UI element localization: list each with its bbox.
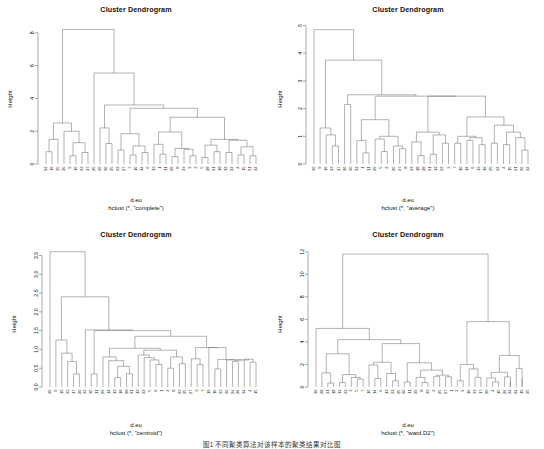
svg-text:29: 29	[169, 166, 174, 171]
x-caption-line2-centroid: hclust (*, "centroid")	[0, 429, 272, 437]
svg-text:3.5: 3.5	[33, 252, 39, 259]
svg-text:24: 24	[513, 389, 518, 394]
svg-text:21: 21	[513, 166, 518, 171]
svg-text:7: 7	[127, 166, 132, 169]
panel-average: Cluster Dendrogram Height 01234536916331…	[272, 0, 544, 225]
svg-text:4: 4	[247, 389, 252, 392]
svg-text:2: 2	[29, 130, 35, 133]
svg-text:35: 35	[488, 166, 493, 171]
panel-ward: Cluster Dendrogram Height 02468101236283…	[272, 225, 544, 449]
x-caption-line1-complete: d.eu	[0, 196, 272, 204]
svg-text:15: 15	[496, 389, 501, 394]
svg-text:2.0: 2.0	[33, 308, 39, 315]
svg-text:28: 28	[319, 389, 324, 394]
svg-text:27: 27	[397, 166, 402, 171]
svg-text:7: 7	[200, 389, 205, 392]
svg-text:34: 34	[253, 166, 258, 171]
svg-text:32: 32	[354, 166, 359, 171]
x-caption-line2-complete: hclust (*, "complete")	[0, 204, 272, 212]
svg-text:22: 22	[141, 389, 146, 394]
svg-text:2.5: 2.5	[33, 289, 39, 296]
svg-text:2: 2	[165, 389, 170, 392]
svg-text:5: 5	[354, 389, 359, 392]
svg-text:32: 32	[390, 389, 395, 394]
svg-text:26: 26	[502, 389, 507, 394]
svg-text:35: 35	[55, 166, 60, 171]
svg-text:28: 28	[421, 166, 426, 171]
svg-text:30: 30	[88, 389, 93, 394]
svg-text:14: 14	[372, 389, 377, 394]
svg-text:36: 36	[313, 389, 318, 394]
svg-text:0: 0	[299, 385, 305, 388]
svg-text:24: 24	[43, 166, 48, 171]
svg-text:8: 8	[171, 389, 176, 392]
x-caption-line1-centroid: d.eu	[0, 421, 272, 429]
svg-text:4: 4	[235, 166, 240, 169]
svg-text:6: 6	[153, 389, 158, 392]
svg-text:15: 15	[507, 166, 512, 171]
svg-text:27: 27	[121, 166, 126, 171]
svg-text:22: 22	[343, 389, 348, 394]
svg-text:36: 36	[311, 166, 316, 171]
svg-text:22: 22	[229, 166, 234, 171]
svg-text:10: 10	[299, 271, 305, 277]
panel-complete: Cluster Dendrogram Height 02468241935309…	[0, 0, 272, 225]
svg-text:2: 2	[187, 166, 192, 169]
svg-text:11: 11	[407, 389, 412, 394]
svg-text:19: 19	[482, 166, 487, 171]
svg-text:34: 34	[507, 389, 512, 394]
svg-text:4: 4	[29, 97, 35, 100]
dendrogram-plot-ward: 0246810123628311812223571014613322530112…	[272, 225, 544, 421]
svg-text:4: 4	[297, 52, 303, 55]
dendrogram-plot-complete: 0246824193530916331720263625322771014613…	[0, 0, 272, 196]
svg-text:34: 34	[241, 389, 246, 394]
svg-text:16: 16	[466, 389, 471, 394]
svg-text:2: 2	[384, 166, 389, 169]
x-caption-line1-average: d.eu	[272, 196, 544, 204]
svg-text:12: 12	[433, 166, 438, 171]
svg-text:20: 20	[342, 166, 347, 171]
x-caption-ward: d.eu hclust (*, "ward.D2")	[272, 421, 544, 437]
svg-text:4: 4	[299, 340, 305, 343]
svg-text:14: 14	[106, 389, 111, 394]
svg-text:29: 29	[372, 166, 377, 171]
svg-text:19: 19	[49, 166, 54, 171]
svg-text:0: 0	[29, 162, 35, 165]
svg-text:16: 16	[323, 166, 328, 171]
figure-caption: 图1 不同聚类算法对该样本的聚类结果对比图	[0, 439, 544, 449]
svg-text:20: 20	[484, 389, 489, 394]
svg-text:0.5: 0.5	[33, 364, 39, 371]
svg-text:2: 2	[297, 107, 303, 110]
svg-text:11: 11	[163, 166, 168, 171]
svg-text:20: 20	[77, 389, 82, 394]
svg-text:8: 8	[175, 166, 180, 169]
svg-text:29: 29	[100, 389, 105, 394]
svg-text:27: 27	[443, 389, 448, 394]
svg-text:3.0: 3.0	[33, 271, 39, 278]
svg-text:2: 2	[431, 389, 436, 392]
svg-text:13: 13	[112, 389, 117, 394]
svg-text:35: 35	[525, 389, 530, 394]
svg-text:1: 1	[360, 166, 365, 169]
svg-text:10: 10	[366, 389, 371, 394]
dendrogram-plot-centroid: 0.00.51.01.52.02.53.03.53691633172032301…	[0, 225, 272, 421]
x-caption-line2-ward: hclust (*, "ward.D2")	[272, 429, 544, 437]
svg-text:12: 12	[223, 166, 228, 171]
svg-text:33: 33	[79, 166, 84, 171]
svg-text:26: 26	[519, 166, 524, 171]
svg-text:29: 29	[413, 389, 418, 394]
svg-text:7: 7	[452, 166, 457, 169]
svg-text:0.0: 0.0	[33, 383, 39, 390]
svg-text:32: 32	[115, 166, 120, 171]
svg-text:0: 0	[297, 162, 303, 165]
svg-text:34: 34	[525, 166, 530, 171]
svg-text:30: 30	[348, 166, 353, 171]
svg-text:4: 4	[501, 166, 506, 169]
svg-text:10: 10	[133, 166, 138, 171]
svg-text:12: 12	[299, 249, 305, 255]
svg-text:5: 5	[199, 166, 204, 169]
svg-text:17: 17	[85, 166, 90, 171]
svg-text:24: 24	[495, 166, 500, 171]
svg-text:33: 33	[329, 166, 334, 171]
svg-text:25: 25	[437, 389, 442, 394]
